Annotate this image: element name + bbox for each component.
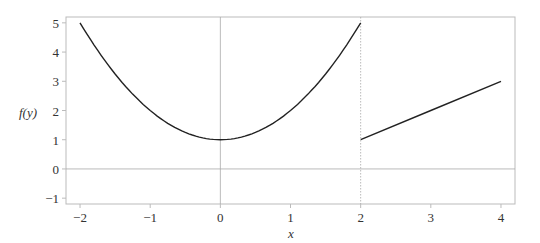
y-tick-label: 3: [53, 74, 60, 89]
y-axis-label: f(y): [19, 105, 37, 120]
x-tick-label: 3: [428, 210, 435, 225]
x-tick-label: 2: [357, 210, 364, 225]
x-axis-label: x: [287, 226, 294, 241]
chart: −2−101234−1012345 x f(y): [0, 0, 540, 243]
y-tick-label: −1: [45, 191, 59, 206]
y-tick-label: 2: [53, 104, 60, 119]
y-tick-label: 1: [53, 133, 60, 148]
y-tick-label: 5: [53, 16, 60, 31]
piece-2-curve: [361, 81, 501, 139]
y-tick-label: 4: [53, 45, 60, 60]
x-tick-label: 1: [287, 210, 294, 225]
y-tick-label: 0: [53, 162, 60, 177]
x-tick-label: 0: [217, 210, 224, 225]
x-tick-label: 4: [498, 210, 505, 225]
x-tick-label: −1: [143, 210, 157, 225]
x-tick-label: −2: [73, 210, 87, 225]
